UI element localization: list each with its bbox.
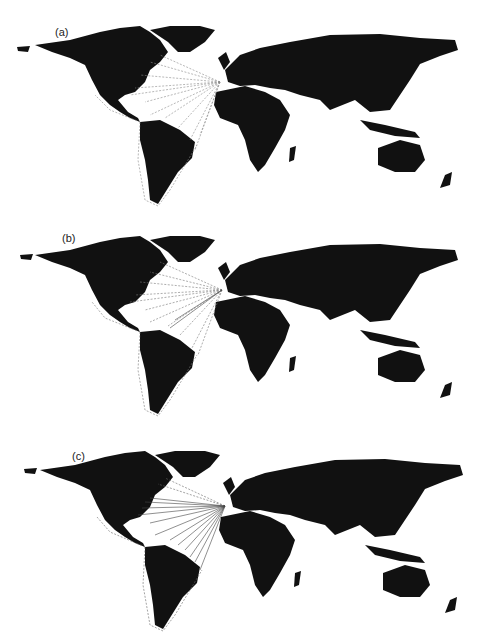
panel-label-a: (a) bbox=[55, 26, 68, 38]
panel-label-b: (b) bbox=[62, 232, 75, 244]
map-panel-c: (c) bbox=[0, 420, 483, 632]
map-panel-b: (b) bbox=[0, 210, 483, 420]
panel-label-c: (c) bbox=[72, 450, 85, 462]
map-panel-a: (a) bbox=[0, 0, 483, 210]
world-map-a bbox=[0, 0, 483, 210]
